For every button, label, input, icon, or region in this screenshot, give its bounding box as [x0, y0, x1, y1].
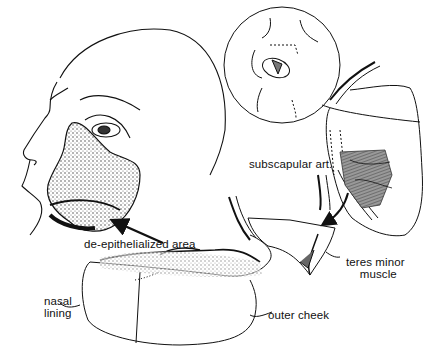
scapular-harvest: [318, 62, 422, 236]
label-subscapular-artery: subscapular art.: [249, 158, 332, 170]
label-teres-line1: teres minor: [346, 256, 405, 268]
pedicle-texture: [100, 252, 262, 277]
label-nasal-lining: nasal lining: [44, 295, 72, 319]
label-teres-minor-muscle: teres minor muscle: [346, 256, 405, 280]
illustration: de-epithelialized area subscapular art. …: [0, 0, 436, 363]
label-teres-line2: muscle: [346, 268, 405, 280]
cheek-defect: [47, 123, 140, 231]
label-nasal-line2: lining: [44, 307, 72, 319]
label-nasal-line1: nasal: [44, 295, 72, 307]
label-deepithelialized-area: de-epithelialized area: [84, 238, 196, 250]
muscle-flap: [340, 150, 392, 208]
label-outer-cheek: outer cheek: [268, 309, 329, 321]
